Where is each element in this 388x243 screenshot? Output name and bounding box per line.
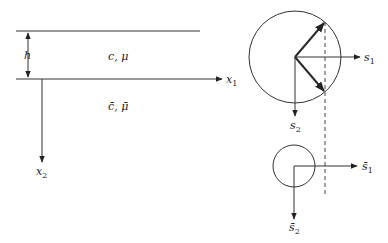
- layer-properties-label: c, μ: [108, 50, 128, 63]
- elastic-layer-slowness-diagram: h c, μ c̄, μ̄ x1 x2 s1 s2 s̄1 s̄2: [0, 0, 388, 243]
- downgoing-slowness-arrow-icon: [295, 57, 324, 91]
- x1-axis-label: x1: [226, 73, 237, 88]
- thickness-label: h: [24, 49, 31, 62]
- upgoing-slowness-arrow-icon: [295, 23, 324, 57]
- s2-bar-axis-label: s̄2: [289, 221, 300, 236]
- s2-axis-label: s2: [290, 119, 301, 134]
- s1-bar-axis-label: s̄1: [362, 160, 373, 175]
- halfspace-properties-label: c̄, μ̄: [108, 100, 128, 113]
- x2-axis-label: x2: [36, 165, 47, 180]
- layer-slowness-circle: [249, 11, 360, 116]
- halfspace-slowness-circle: [273, 145, 357, 219]
- s1-axis-label: s1: [364, 51, 375, 66]
